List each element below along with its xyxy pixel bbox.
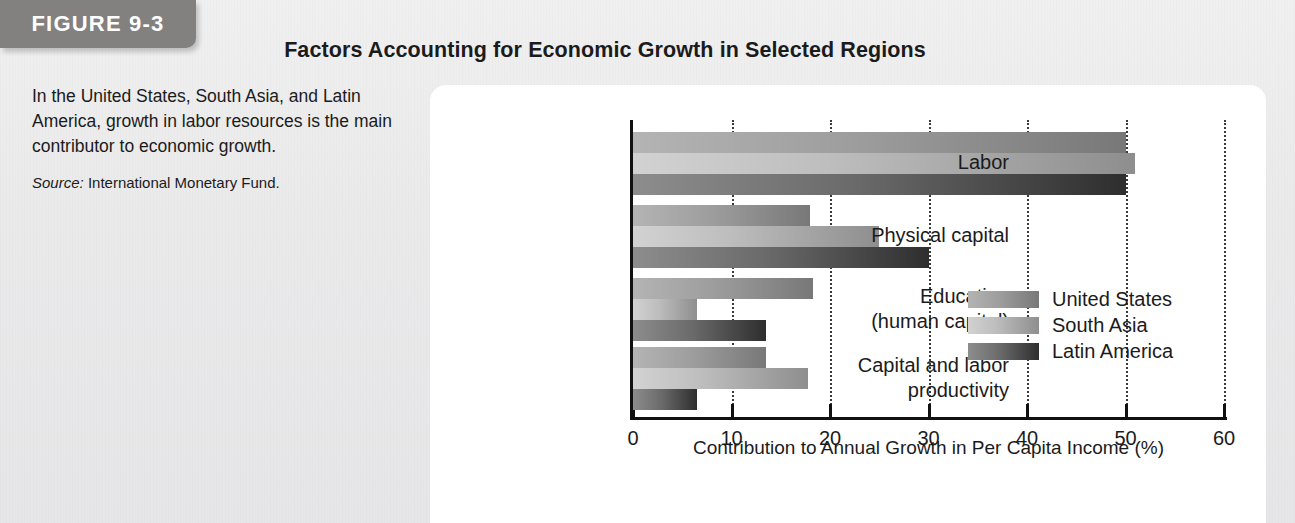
bar	[633, 368, 808, 389]
legend-label: South Asia	[1052, 314, 1148, 337]
figure-number-tab: FIGURE 9-3	[0, 0, 196, 48]
bar	[633, 247, 929, 268]
bar	[633, 205, 810, 226]
bar	[633, 174, 1126, 195]
legend-label: Latin America	[1052, 340, 1173, 363]
figure-caption-text: In the United States, South Asia, and La…	[32, 84, 407, 159]
source-prefix-label: Source:	[32, 174, 84, 191]
legend-item: United States	[968, 287, 1173, 311]
figure-source-line: Source: International Monetary Fund.	[32, 174, 407, 191]
legend-swatch	[968, 343, 1039, 360]
x-axis-tick	[829, 404, 832, 420]
chart-legend: United StatesSouth AsiaLatin America	[968, 287, 1173, 365]
x-axis-tick	[1125, 404, 1128, 420]
gridline	[1224, 120, 1226, 417]
legend-item: Latin America	[968, 339, 1173, 363]
figure-caption-block: In the United States, South Asia, and La…	[32, 84, 407, 191]
legend-label: United States	[1052, 288, 1172, 311]
chart-plot-area: 0102030405060LaborPhysical capitalEducat…	[633, 120, 1224, 417]
x-axis-tick	[928, 404, 931, 420]
figure-number-label: FIGURE 9-3	[31, 11, 164, 37]
figure-title: Factors Accounting for Economic Growth i…	[225, 38, 985, 63]
x-axis-title: Contribution to Annual Growth in Per Cap…	[633, 437, 1224, 459]
bar	[633, 226, 879, 247]
bar	[633, 389, 697, 410]
bar	[633, 299, 697, 320]
category-label: Physical capital	[871, 223, 1009, 248]
legend-swatch	[968, 317, 1039, 334]
bar	[633, 153, 1135, 174]
source-text: International Monetary Fund.	[88, 174, 280, 191]
chart-panel: 0102030405060LaborPhysical capitalEducat…	[430, 85, 1266, 523]
x-axis-tick	[1026, 404, 1029, 420]
bar	[633, 320, 766, 341]
bar	[633, 347, 766, 368]
category-label: Labor	[958, 150, 1009, 175]
x-axis-tick	[1223, 404, 1226, 420]
x-axis-tick	[731, 404, 734, 420]
legend-item: South Asia	[968, 313, 1173, 337]
legend-swatch	[968, 291, 1039, 308]
bar	[633, 278, 813, 299]
bar	[633, 132, 1126, 153]
